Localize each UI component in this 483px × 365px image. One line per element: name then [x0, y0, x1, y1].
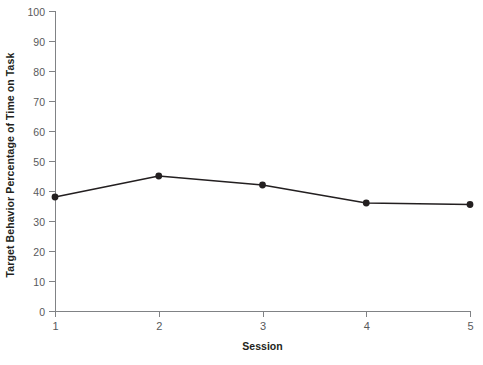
x-tick-label: 3 [260, 320, 266, 332]
y-tick-label: 70 [33, 96, 45, 108]
series-line [55, 176, 470, 205]
data-point [467, 201, 474, 208]
x-tick: 3 [263, 311, 264, 317]
y-tick-label: 80 [33, 66, 45, 78]
x-axis-title: Session [55, 340, 470, 352]
y-tick-label: 10 [33, 276, 45, 288]
y-tick-label: 60 [33, 126, 45, 138]
data-series [55, 11, 470, 311]
y-axis-title: Target Behavior Percentage of Time on Ta… [0, 0, 20, 330]
x-tick-label: 4 [364, 320, 370, 332]
x-tick-label: 2 [156, 320, 162, 332]
y-tick-label: 100 [27, 6, 45, 18]
x-tick: 2 [159, 311, 160, 317]
y-tick-label: 50 [33, 156, 45, 168]
y-tick-label: 0 [39, 306, 45, 318]
y-tick-label: 90 [33, 36, 45, 48]
data-point [259, 182, 266, 189]
plot-area: 0102030405060708090100 12345 [55, 11, 470, 311]
x-tick: 4 [366, 311, 367, 317]
line-chart: Target Behavior Percentage of Time on Ta… [0, 0, 483, 365]
y-tick-label: 20 [33, 246, 45, 258]
data-point [363, 200, 370, 207]
data-point [52, 194, 59, 201]
x-tick: 1 [55, 311, 56, 317]
y-tick-label: 30 [33, 216, 45, 228]
y-tick-label: 40 [33, 186, 45, 198]
series-markers [52, 173, 474, 208]
x-tick-label: 5 [468, 320, 474, 332]
x-tick: 5 [470, 311, 471, 317]
x-tick-label: 1 [53, 320, 59, 332]
data-point [155, 173, 162, 180]
